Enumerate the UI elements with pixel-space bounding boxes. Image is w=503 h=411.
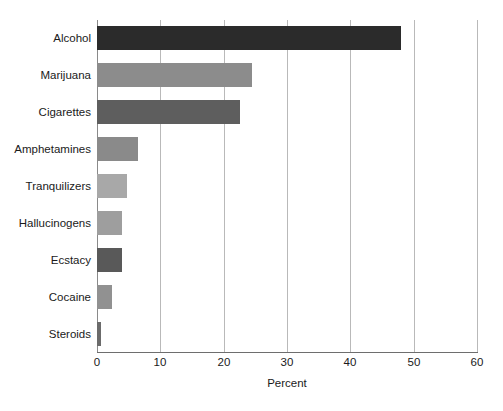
x-tick-40: 40: [330, 356, 370, 368]
bar-tranquilizers: [97, 174, 127, 198]
bar-cigarettes: [97, 100, 240, 124]
bar-hallucinogens: [97, 211, 122, 235]
bar-row: [97, 26, 401, 50]
gridline-60: [477, 20, 478, 352]
bar-ecstacy: [97, 248, 122, 272]
x-tick-50: 50: [394, 356, 434, 368]
y-label-tranquilizers: Tranquilizers: [0, 174, 91, 198]
bar-alcohol: [97, 26, 401, 50]
y-label-hallucinogens: Hallucinogens: [0, 211, 91, 235]
x-axis-tick-labels: 0 10 20 30 40 50 60: [0, 356, 503, 374]
bar-series: [97, 20, 477, 352]
x-tick-30: 30: [267, 356, 307, 368]
y-axis-labels: Alcohol Marijuana Cigarettes Amphetamine…: [0, 20, 91, 352]
bar-cocaine: [97, 285, 112, 309]
bar-steroids: [97, 322, 101, 346]
bar-row: [97, 100, 240, 124]
y-label-alcohol: Alcohol: [0, 26, 91, 50]
x-axis-title: Percent: [97, 377, 477, 389]
bar-chart: Alcohol Marijuana Cigarettes Amphetamine…: [0, 0, 503, 411]
x-tick-20: 20: [204, 356, 244, 368]
bar-row: [97, 248, 122, 272]
bar-marijuana: [97, 63, 252, 87]
bar-row: [97, 322, 101, 346]
y-label-ecstacy: Ecstacy: [0, 248, 91, 272]
x-tick-0: 0: [77, 356, 117, 368]
y-label-cigarettes: Cigarettes: [0, 100, 91, 124]
x-axis-line: [97, 352, 478, 353]
y-label-marijuana: Marijuana: [0, 63, 91, 87]
bar-amphetamines: [97, 137, 138, 161]
bar-row: [97, 174, 127, 198]
y-label-cocaine: Cocaine: [0, 285, 91, 309]
y-label-amphetamines: Amphetamines: [0, 137, 91, 161]
x-tick-10: 10: [140, 356, 180, 368]
bar-row: [97, 63, 252, 87]
x-tick-60: 60: [457, 356, 497, 368]
bar-row: [97, 137, 138, 161]
bar-row: [97, 211, 122, 235]
bar-row: [97, 285, 112, 309]
y-label-steroids: Steroids: [0, 322, 91, 346]
